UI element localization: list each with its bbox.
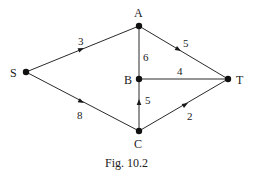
node-c <box>136 128 142 134</box>
node-label-t: T <box>236 73 244 87</box>
weight-s-c: 8 <box>77 109 83 121</box>
node-b <box>136 76 142 82</box>
weight-c-b: 5 <box>145 94 151 106</box>
graph-canvas: S A B C T 3 5 6 4 5 8 2 <box>0 0 253 175</box>
node-a <box>136 23 142 29</box>
weight-a-t: 5 <box>183 37 189 49</box>
node-label-a: A <box>134 6 143 20</box>
weight-a-b: 6 <box>143 51 149 63</box>
node-label-c: C <box>134 137 142 151</box>
figure-caption: Fig. 10.2 <box>0 156 253 171</box>
node-t <box>225 76 231 82</box>
weight-s-a: 3 <box>78 35 84 47</box>
weight-c-t: 2 <box>187 110 193 122</box>
node-s <box>23 69 29 75</box>
weight-b-t: 4 <box>177 65 183 77</box>
network-diagram: S A B C T 3 5 6 4 5 8 2 Fig. 10.2 <box>0 0 253 175</box>
node-label-s: S <box>10 66 17 80</box>
edge-a-t <box>139 26 228 79</box>
arrow-c-b-icon <box>137 99 142 105</box>
node-label-b: B <box>124 73 132 87</box>
arrow-a-t-icon <box>175 46 183 53</box>
